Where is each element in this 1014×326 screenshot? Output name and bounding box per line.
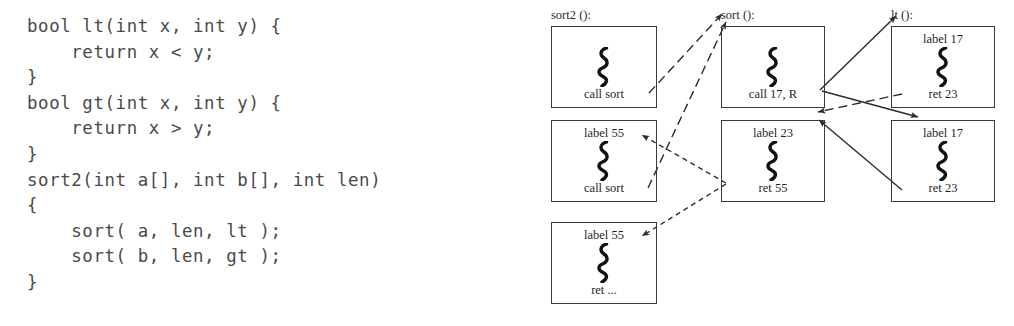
- source-code-listing: bool lt(int x, int y) { return x < y; } …: [27, 14, 381, 296]
- frame-sort2-3-bottom-label: ret ...: [552, 283, 656, 298]
- code-squiggle-icon: [766, 141, 780, 181]
- frame-sort2-1: call sort: [551, 26, 657, 108]
- frame-sort2-2: label 55 call sort: [551, 120, 657, 202]
- source-code-panel: bool lt(int x, int y) { return x < y; } …: [0, 0, 520, 326]
- frame-lt-2-bottom-label: ret 23: [892, 181, 994, 196]
- code-squiggle-icon: [936, 141, 950, 181]
- call-trace-diagram: sort2 (): sort (): lt (): call sort labe…: [530, 0, 1014, 326]
- frame-sort2-1-bottom-label: call sort: [552, 87, 656, 102]
- frame-sort2-3-top-label: label 55: [552, 228, 656, 243]
- code-squiggle-icon: [597, 243, 611, 283]
- code-squiggle-icon: [936, 47, 950, 87]
- frame-lt-2: label 17 ret 23: [891, 120, 995, 202]
- edge-sort-1-call-to-lt-1: [820, 16, 896, 90]
- frame-lt-2-top-label: label 17: [892, 126, 994, 141]
- frame-sort2-2-top-label: label 55: [552, 126, 656, 141]
- frame-sort-1: call 17, R: [721, 26, 825, 108]
- frame-sort-2: label 23 ret 55: [721, 120, 825, 202]
- code-squiggle-icon: [597, 141, 611, 181]
- frame-lt-1: label 17 ret 23: [891, 26, 995, 108]
- frame-sort2-2-bottom-label: call sort: [552, 181, 656, 196]
- frame-sort-2-bottom-label: ret 55: [722, 181, 824, 196]
- column-header-sort: sort ():: [721, 8, 755, 23]
- column-header-sort2: sort2 ():: [551, 8, 591, 23]
- edge-lt-2-ret-to-sort-2: [819, 120, 902, 190]
- column-header-lt: lt ():: [891, 8, 913, 23]
- frame-lt-1-top-label: label 17: [892, 32, 994, 47]
- frame-sort-2-top-label: label 23: [722, 126, 824, 141]
- code-squiggle-icon: [766, 47, 780, 87]
- frame-sort2-3: label 55 ret ...: [551, 222, 657, 304]
- frame-sort-1-bottom-label: call 17, R: [722, 87, 824, 102]
- code-squiggle-icon: [597, 47, 611, 87]
- frame-lt-1-bottom-label: ret 23: [892, 87, 994, 102]
- edge-sort2-2-call-sort-to-sort-1: [648, 22, 726, 188]
